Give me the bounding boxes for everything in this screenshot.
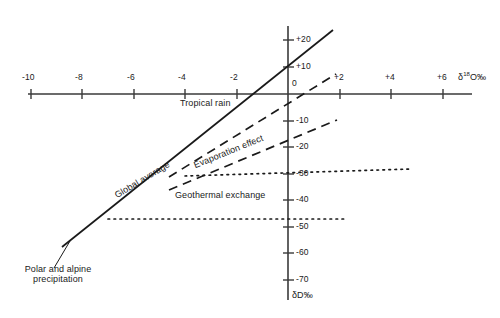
x-tick-label-0: 0 xyxy=(292,78,297,88)
x-axis-title: δ18O‰ xyxy=(458,71,486,82)
y-tick-label--50: -50 xyxy=(296,221,309,231)
y-tick-label--10: -10 xyxy=(296,115,309,125)
series-evaporation-lower-line xyxy=(169,120,337,190)
annotation-tropical-rain: Tropical rain xyxy=(180,98,230,108)
x-tick-label--6: -6 xyxy=(127,72,135,82)
annotation-polar-alpine-precipitation: Polar and alpine precipitation xyxy=(10,264,106,284)
x-axis-title-suffix: O‰ xyxy=(470,72,486,82)
annotation-polar-alpine-line1: Polar and alpine xyxy=(10,264,106,274)
y-tick-label--40: -40 xyxy=(296,194,309,204)
y-tick-label--20: -20 xyxy=(296,141,309,151)
x-tick-label--8: -8 xyxy=(75,72,83,82)
x-tick-label--2: -2 xyxy=(230,72,238,82)
annotation-polar-alpine-line2: precipitation xyxy=(10,274,106,284)
y-axis-title: δD‰ xyxy=(292,290,313,300)
y-tick-label-+20: +20 xyxy=(296,34,311,44)
y-tick-label--70: -70 xyxy=(296,274,309,284)
y-tick-label-+10: +10 xyxy=(296,61,311,71)
x-tick-label--10: -10 xyxy=(22,72,35,82)
x-tick-label-+6: +6 xyxy=(437,72,447,82)
x-axis-title-superscript: 18 xyxy=(463,71,470,77)
x-tick-label--4: -4 xyxy=(178,72,186,82)
series-global-average-line xyxy=(62,30,333,247)
x-tick-label-+2: +2 xyxy=(334,72,344,82)
isotope-chart-figure: -10 -8 -6 -4 -2 0 +2 +4 +6 δ18O‰ +20 +10… xyxy=(0,0,500,318)
x-tick-label-+4: +4 xyxy=(385,72,395,82)
y-tick-label--60: -60 xyxy=(296,247,309,257)
y-tick-label--30: -30 xyxy=(296,168,309,178)
annotation-geothermal-exchange: Geothermal exchange xyxy=(175,190,265,200)
